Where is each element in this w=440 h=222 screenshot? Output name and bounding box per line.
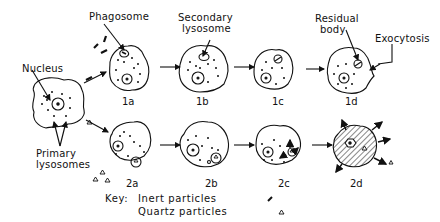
label-phagosome: Phagosome bbox=[89, 11, 149, 22]
label-residual-body-line2: body bbox=[320, 24, 346, 35]
label-secondary-lysosome-line2: lysosome bbox=[182, 23, 231, 34]
cell-1d bbox=[327, 47, 374, 93]
cell-2b bbox=[180, 122, 229, 167]
key-quartz-particles: Quartz particles bbox=[138, 206, 227, 218]
cell-2a bbox=[110, 122, 151, 167]
label-residual-body-line1: Residual bbox=[315, 13, 359, 24]
stage-2c: 2c bbox=[278, 178, 290, 189]
stage-1b: 1b bbox=[196, 96, 209, 107]
stage-1a: 1a bbox=[122, 96, 135, 107]
label-primary-lysosomes-line2: lysosomes bbox=[36, 159, 90, 170]
key-title: Key: bbox=[105, 193, 128, 205]
label-primary-lysosomes-line1: Primary bbox=[36, 148, 76, 159]
label-exocytosis: Exocytosis bbox=[375, 33, 430, 44]
macrophage-initial bbox=[33, 78, 85, 128]
label-secondary-lysosome-line1: Secondary bbox=[178, 12, 233, 23]
stage-2d: 2d bbox=[350, 178, 363, 189]
stage-1c: 1c bbox=[272, 96, 284, 107]
stage-2b: 2b bbox=[205, 178, 218, 189]
stage-2a: 2a bbox=[126, 178, 139, 189]
cell-1b bbox=[179, 46, 228, 93]
stage-1d: 1d bbox=[345, 96, 358, 107]
cell-1c bbox=[254, 49, 293, 89]
cell-2d bbox=[333, 125, 376, 167]
cell-1a bbox=[110, 46, 149, 91]
key-inert-particles: Inert particles bbox=[138, 193, 217, 205]
label-nucleus: Nucleus bbox=[22, 63, 63, 74]
